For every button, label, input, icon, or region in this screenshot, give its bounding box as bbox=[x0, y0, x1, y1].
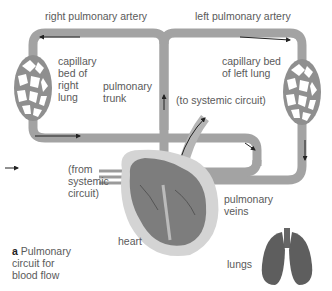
label-right-pulmonary-artery: right pulmonary artery bbox=[45, 10, 147, 22]
label-pulmonary-trunk: pulmonary trunk bbox=[103, 80, 152, 104]
capillary-bed-left-lung bbox=[283, 59, 321, 125]
label-heart: heart bbox=[118, 235, 142, 247]
capillary-bed-right-lung bbox=[14, 55, 52, 121]
panel-letter: a bbox=[12, 245, 18, 257]
label-capillary-bed-right-lung: capillary bed of right lung bbox=[58, 55, 97, 103]
label-lungs: lungs bbox=[227, 258, 252, 270]
caption-text: Pulmonary circuit for blood flow bbox=[12, 245, 71, 281]
label-capillary-bed-left-lung: capillary bed of left lung bbox=[222, 55, 281, 79]
figure-caption: a Pulmonary circuit for blood flow bbox=[12, 245, 71, 281]
label-from-systemic-circuit: (from systemic circuit) bbox=[68, 163, 109, 199]
lungs-icon bbox=[262, 228, 312, 285]
label-left-pulmonary-artery: left pulmonary artery bbox=[195, 10, 291, 22]
label-to-systemic-circuit: (to systemic circuit) bbox=[176, 94, 266, 106]
label-pulmonary-veins: pulmonary veins bbox=[224, 193, 273, 217]
